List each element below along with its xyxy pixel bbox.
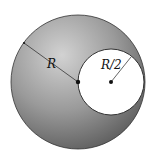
label-r: R [46, 57, 56, 71]
cavity-center-dot [109, 80, 113, 84]
sphere-with-cavity-diagram: R R/2 [0, 0, 157, 159]
radius-end-dot [23, 42, 25, 44]
sphere-center-dot [76, 80, 80, 84]
label-half-r: R/2 [100, 58, 122, 72]
